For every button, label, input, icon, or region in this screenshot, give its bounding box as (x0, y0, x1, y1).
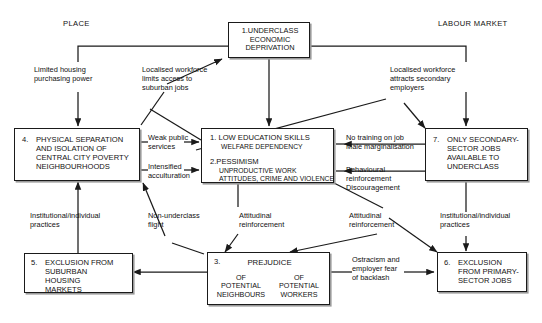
box-exclusion-primary-sector[interactable]: 6. EXCLUSION FROM PRIMARY- SECTOR JOBS (437, 252, 527, 292)
diagram-canvas: PLACE LABOUR MARKET 1.UNDERCLASS ECONOMI… (0, 0, 542, 323)
box-low-education-heading: 1. LOW EDUCATION SKILLS (210, 134, 310, 143)
edge-label-limited-housing: Limited housing purchasing power (34, 66, 92, 84)
edge-label-behavioural-reinforcement: Behavioural reinforcement Discouragement (346, 166, 400, 193)
edge-label-attitudinal-left: Attitudinal reinforcement (239, 212, 284, 230)
edge-top-left-bus (78, 46, 228, 62)
box-physical-separation-id: 4. (22, 136, 28, 145)
edge-attracts-to-box7 (404, 103, 425, 128)
box-secondary-sector-id: 7. (433, 136, 439, 145)
edge-label-institutional-right: Institutional/individual practices (440, 212, 510, 230)
box-exclusion-housing-text: EXCLUSION FROM SUBURBAN HOUSING MARKETS (45, 259, 113, 295)
edge-attitudinal-right-to-box6 (389, 218, 437, 252)
edge-attitudinal-left-to-box3 (225, 234, 238, 252)
box-underclass-economic-deprivation[interactable]: 1.UNDERCLASS ECONOMIC DEPRIVATION (228, 22, 310, 58)
section-label-place: PLACE (63, 19, 90, 28)
box-exclusion-primary-id: 6. (444, 259, 450, 268)
edge-top-right-bus (310, 46, 466, 62)
box-physical-separation-text: PHYSICAL SEPARATION AND ISOLATION OF CEN… (36, 136, 129, 172)
edge-nonunderclass-from-box3 (172, 243, 204, 254)
box-prejudice-left-column: OF POTENTIAL NEIGHBOURS (212, 274, 270, 299)
box-underclass-text: 1.UNDERCLASS ECONOMIC DEPRIVATION (229, 27, 311, 53)
edge-label-localised-limits: Localised workforce limits access to sub… (142, 66, 207, 93)
edge-localised-limits-stem (141, 92, 164, 125)
box-low-education-sub: WELFARE DEPENDENCY (221, 143, 303, 151)
edge-label-ostracism: Ostracism and employer fear of backlash (352, 256, 400, 283)
section-label-labour-market: LABOUR MARKET (438, 19, 508, 28)
edge-label-weak-public-services: Weak public services (148, 134, 188, 152)
box-prejudice[interactable]: 3. PREJUDICE OF POTENTIAL NEIGHBOURS OF … (207, 252, 330, 305)
box-exclusion-primary-text: EXCLUSION FROM PRIMARY- SECTOR JOBS (458, 259, 519, 286)
box-secondary-sector-jobs[interactable]: 7. ONLY SECONDARY- SECTOR JOBS AVAILABLE… (425, 128, 528, 181)
box-pessimism-heading: 2.PESSIMISM (210, 158, 259, 167)
box-physical-separation[interactable]: 4. PHYSICAL SEPARATION AND ISOLATION OF … (14, 128, 140, 181)
edge-attitudinal-right-to-box3 (290, 234, 377, 252)
box-exclusion-housing-id: 5. (31, 259, 37, 268)
box-secondary-sector-text: ONLY SECONDARY- SECTOR JOBS AVAILABLE TO… (447, 136, 519, 172)
edge-label-no-training: No training on job Male marginalisation (346, 134, 414, 152)
edge-label-non-underclass-flight: Non-underclass flight (148, 212, 200, 230)
box-low-education-pessimism[interactable]: 1. LOW EDUCATION SKILLS WELFARE DEPENDEN… (201, 128, 334, 183)
box-prejudice-title: PREJUDICE (208, 258, 331, 267)
box-prejudice-right-column: OF POTENTIAL WORKERS (270, 274, 328, 299)
box-pessimism-sub: UNPRODUCTIVE WORK ATTITUDES, CRIME AND V… (219, 167, 334, 183)
edge-label-institutional-left: Institutional/individual practices (30, 212, 100, 230)
edge-label-attitudinal-right: Attitudinal reinforcement (349, 212, 394, 230)
box-exclusion-suburban-housing[interactable]: 5. EXCLUSION FROM SUBURBAN HOUSING MARKE… (24, 253, 133, 293)
edge-label-intensified-acculturation: Intensified acculturation (148, 163, 190, 181)
edge-label-localised-attracts: Localised workforce attracts secondary e… (390, 66, 455, 93)
